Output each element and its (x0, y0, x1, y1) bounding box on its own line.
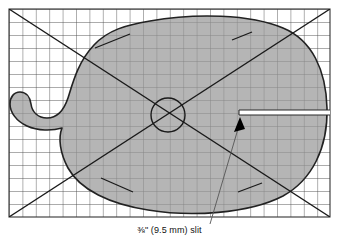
figure-root: ⅜" (9.5 mm) slit (0, 0, 339, 242)
slit-gap (239, 110, 330, 115)
slit-opening (239, 110, 330, 115)
pattern-template-diagram (0, 0, 339, 242)
slit-caption: ⅜" (9.5 mm) slit (0, 225, 339, 236)
